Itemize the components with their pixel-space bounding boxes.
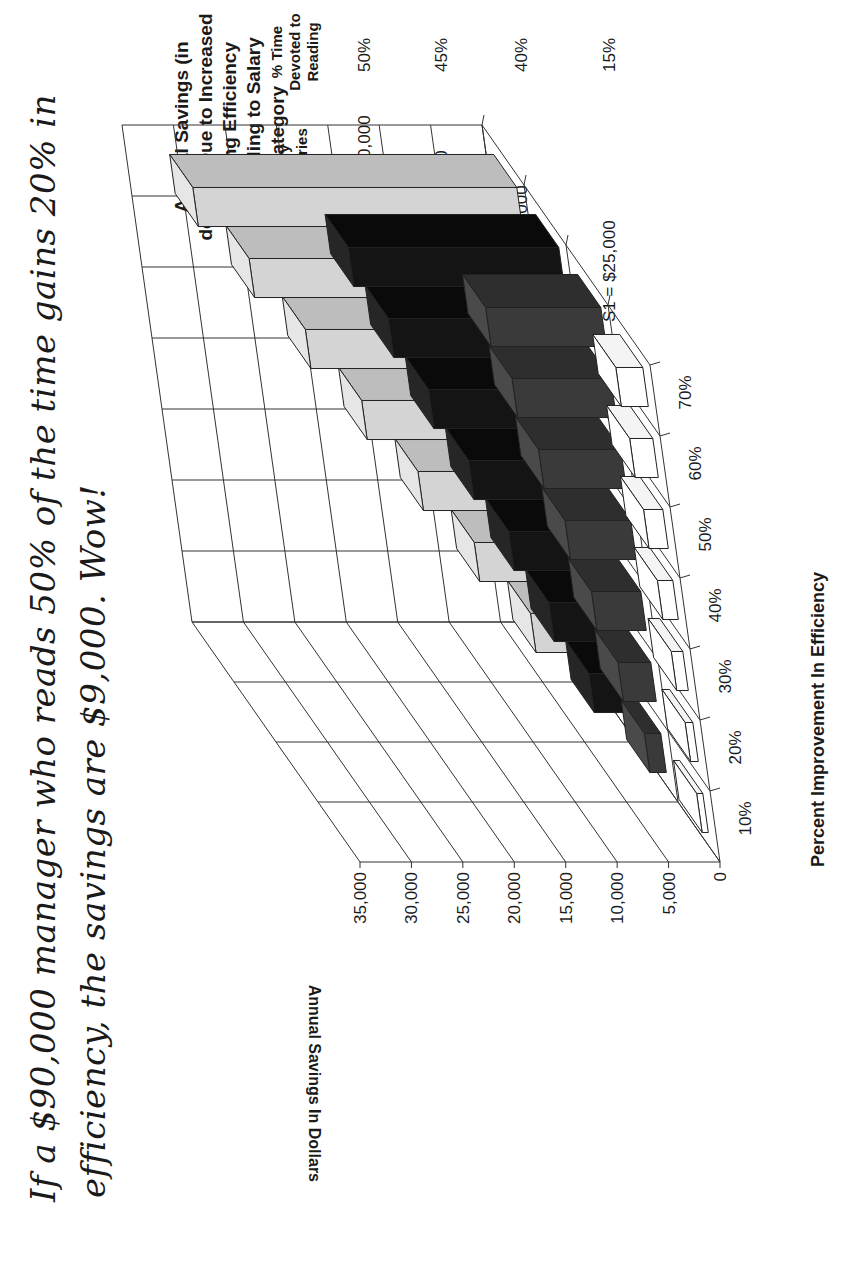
x-tick-label: 20% bbox=[726, 730, 745, 764]
x-tick-label: 10% bbox=[736, 801, 755, 835]
x-tick-label: 70% bbox=[676, 375, 695, 409]
y-tick-label: 25,000 bbox=[454, 872, 473, 924]
x-tick bbox=[690, 646, 700, 649]
x-tick-label: 40% bbox=[706, 588, 725, 622]
z-tick bbox=[482, 115, 484, 125]
bar-s2-30pct-front bbox=[591, 591, 646, 630]
bar-s2-60pct-front bbox=[512, 378, 616, 417]
x-tick bbox=[650, 362, 660, 365]
bar-s2-70pct-front bbox=[486, 307, 607, 346]
bar-s2-20pct-front bbox=[618, 662, 656, 701]
x-tick-label: 30% bbox=[716, 659, 735, 693]
bar-s2-70pct-side bbox=[463, 274, 601, 307]
y-tick-label: 10,000 bbox=[608, 872, 627, 924]
bar-s2-50pct-front bbox=[539, 449, 627, 488]
y-tick-label: 0 bbox=[711, 872, 730, 881]
y-tick-label: 15,000 bbox=[557, 872, 576, 924]
z-tick bbox=[524, 175, 526, 185]
y-tick-label: 20,000 bbox=[505, 872, 524, 924]
x-tick bbox=[680, 575, 690, 578]
x-tick bbox=[710, 788, 720, 791]
bar-s3-70pct-side bbox=[325, 214, 559, 247]
x-tick bbox=[700, 717, 710, 720]
y-axis-label: Annual Savings In Dollars bbox=[305, 985, 323, 1182]
x-axis-label: Percent Improvement In Efficiency bbox=[808, 572, 829, 867]
rotated-page: If a $90,000 manager who reads 50% of th… bbox=[0, 0, 866, 1262]
y-tick-label: 30,000 bbox=[402, 872, 421, 924]
bar-s4-70pct-side bbox=[170, 154, 517, 187]
x-tick bbox=[670, 504, 680, 507]
z-tick bbox=[566, 235, 568, 245]
x-tick-label: 50% bbox=[696, 517, 715, 551]
bar-chart-3d: 05,00010,00015,00020,00025,00030,00035,0… bbox=[0, 0, 866, 1262]
bar-s2-40pct-front bbox=[565, 520, 636, 559]
x-tick-label: 60% bbox=[686, 446, 705, 480]
z-tick bbox=[608, 295, 610, 305]
y-tick-label: 35,000 bbox=[351, 872, 370, 924]
x-tick bbox=[660, 433, 670, 436]
y-tick-label: 5,000 bbox=[660, 872, 679, 915]
